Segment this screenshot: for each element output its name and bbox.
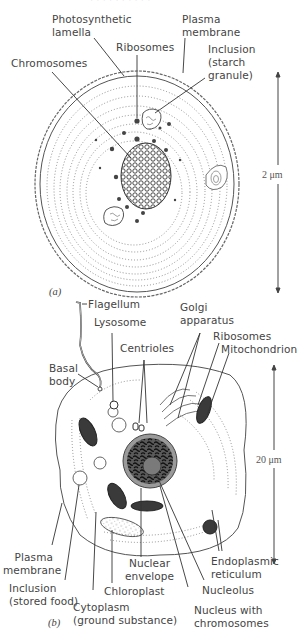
label-nuclear-envelope: Nuclear envelope xyxy=(125,557,174,583)
label-plasma-membrane-a: Plasma membrane xyxy=(182,13,240,39)
label-ribosomes-a: Ribosomes xyxy=(116,41,174,54)
panel-b-tag: (b) xyxy=(48,617,60,628)
label-golgi-apparatus: Golgi apparatus xyxy=(180,301,234,327)
label-chloroplast: Chloroplast xyxy=(104,585,165,598)
label-inclusion-stored-food: Inclusion (stored food) xyxy=(9,582,78,608)
label-flagellum: Flagellum xyxy=(88,298,140,311)
label-cytoplasm: Cytoplasm (ground substance) xyxy=(73,601,177,627)
label-centrioles: Centrioles xyxy=(120,342,174,355)
scale-label-2um: 2 μm xyxy=(262,168,283,181)
label-chromosomes: Chromosomes xyxy=(11,57,87,70)
label-photosynthetic-lamella: Photosynthetic lamella xyxy=(52,13,132,39)
label-inclusion-starch: Inclusion (starch granule) xyxy=(208,43,255,82)
label-lysosome: Lysosome xyxy=(94,316,146,329)
panel-a-tag: (a) xyxy=(49,286,61,297)
scale-bar-2um xyxy=(276,72,280,293)
label-ribosomes-b: Ribosomes xyxy=(213,330,271,343)
cell-diagram-artwork xyxy=(0,0,302,641)
label-nucleus-with-chromosomes: Nucleus with chromosomes xyxy=(194,604,269,630)
label-nucleolus: Nucleolus xyxy=(202,584,254,597)
label-basal-body: Basal body xyxy=(49,362,78,388)
label-plasma-membrane-b: Plasma membrane xyxy=(3,551,53,577)
label-mitochondrion: Mitochondrion xyxy=(221,343,297,356)
label-endoplasmic-reticulum: Endoplasmic reticulum xyxy=(211,555,279,581)
scale-label-20um: 20 μm xyxy=(256,453,282,466)
